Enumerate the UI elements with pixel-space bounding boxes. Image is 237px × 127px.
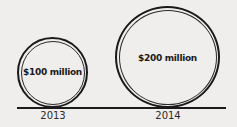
bubble-2014: $200 million <box>115 6 220 108</box>
x-tick-2013: 2013 <box>40 110 65 121</box>
value-label-2014: $200 million <box>138 53 197 63</box>
bubble-2013: $100 million <box>17 37 88 108</box>
baseline-axis <box>17 107 226 109</box>
x-tick-2014: 2014 <box>155 110 180 121</box>
value-label-2013: $100 million <box>23 67 82 77</box>
